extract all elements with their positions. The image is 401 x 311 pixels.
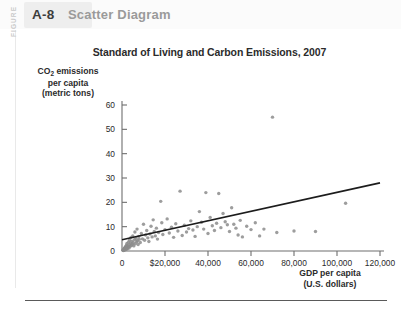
x-tick-label: 100,000 <box>322 258 353 268</box>
scatter-point <box>241 235 244 238</box>
scatter-point <box>258 234 261 237</box>
scatter-point <box>150 235 153 238</box>
x-tick-label: 0 <box>120 258 125 268</box>
scatter-point <box>142 223 145 226</box>
scatter-point <box>165 217 168 220</box>
scatter-point <box>147 240 150 243</box>
scatter-point <box>239 219 242 222</box>
scatter-point <box>271 115 274 118</box>
scatter-point <box>234 226 237 229</box>
y-tick-label: 10 <box>106 222 116 232</box>
figure-page: FIGURE A-8 Scatter Diagram Standard of L… <box>0 0 401 311</box>
scatter-point <box>262 227 265 230</box>
scatter-point <box>133 230 136 233</box>
scatter-point <box>135 227 138 230</box>
scatter-point <box>198 210 201 213</box>
scatter-point <box>181 234 184 237</box>
scatter-point <box>236 233 239 236</box>
scatter-point <box>211 224 214 227</box>
bottom-rule <box>25 300 387 301</box>
scatter-point <box>224 220 227 223</box>
scatter-point <box>151 218 154 221</box>
y-tick-label: 20 <box>106 197 116 207</box>
scatter-point <box>232 223 235 226</box>
x-tick-label: 80,000 <box>281 258 307 268</box>
plot-ticks <box>122 105 380 256</box>
scatter-point <box>189 219 192 222</box>
scatter-point <box>174 222 177 225</box>
scatter-point <box>206 232 209 235</box>
scatter-point <box>155 226 158 229</box>
scatter-point <box>228 230 231 233</box>
x-tick-label: 40,000 <box>195 258 221 268</box>
scatter-point <box>138 238 141 241</box>
scatter-point <box>230 206 233 209</box>
scatter-point <box>160 221 163 224</box>
scatter-point <box>161 233 164 236</box>
scatter-point <box>146 236 149 239</box>
scatter-point <box>149 224 152 227</box>
scatter-point <box>219 226 222 229</box>
scatter-point <box>172 236 175 239</box>
scatter-point <box>196 225 199 228</box>
scatter-point <box>185 230 188 233</box>
x-tick-label: $20,000 <box>150 258 181 268</box>
scatter-point <box>191 228 194 231</box>
scatter-point <box>145 229 148 232</box>
scatter-point <box>176 229 179 232</box>
scatter-point <box>139 241 142 244</box>
scatter-point <box>217 192 220 195</box>
plot-axes <box>122 101 384 251</box>
scatter-point <box>254 221 257 224</box>
scatter-point <box>168 231 171 234</box>
scatter-point <box>187 227 190 230</box>
scatter-point <box>193 235 196 238</box>
y-tick-label: 30 <box>106 173 116 183</box>
scatter-point <box>156 237 159 240</box>
y-tick-label: 60 <box>106 100 116 110</box>
scatter-point <box>202 227 205 230</box>
scatter-point <box>275 231 278 234</box>
scatter-point <box>226 223 229 226</box>
scatter-point <box>221 212 224 215</box>
scatter-point <box>245 224 248 227</box>
scatter-plot: 01020304050600$20,00040,00060,00080,0001… <box>0 0 401 311</box>
x-tick-label: 60,000 <box>238 258 264 268</box>
scatter-point <box>154 234 157 237</box>
scatter-point <box>204 191 207 194</box>
scatter-point <box>213 229 216 232</box>
y-tick-label: 0 <box>110 246 115 256</box>
y-tick-label: 50 <box>106 124 116 134</box>
scatter-point <box>143 239 146 242</box>
scatter-point <box>159 200 162 203</box>
scatter-point <box>249 228 252 231</box>
scatter-point <box>344 202 347 205</box>
scatter-point <box>292 229 295 232</box>
scatter-point <box>178 189 181 192</box>
scatter-point <box>208 216 211 219</box>
y-tick-label: 40 <box>106 149 116 159</box>
scatter-point <box>314 230 317 233</box>
scatter-point <box>215 222 218 225</box>
x-tick-label: 120,000 <box>365 258 396 268</box>
